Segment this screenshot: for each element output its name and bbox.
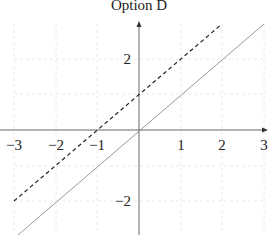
dashed-line-series <box>14 24 222 201</box>
x-tick-label: 2 <box>218 137 226 153</box>
y-axis-arrow-icon <box>137 21 142 27</box>
x-tick-label: −3 <box>6 137 22 153</box>
y-tick-label: −2 <box>115 193 131 209</box>
axes <box>0 21 268 235</box>
x-axis-arrow-icon <box>262 128 268 133</box>
x-tick-label: 1 <box>177 137 185 153</box>
x-tick-label: −1 <box>89 137 105 153</box>
chart-title: Option D <box>111 0 167 13</box>
y-tick-label: 2 <box>124 51 132 67</box>
solid-line-series <box>18 24 264 235</box>
chart: Option D −3 −2 −1 1 2 3 2 −2 <box>0 0 269 235</box>
x-tick-label: 3 <box>260 137 268 153</box>
x-tick-label: −2 <box>48 137 64 153</box>
